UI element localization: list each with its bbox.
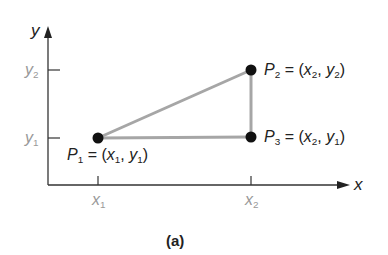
point-p3 <box>246 132 257 143</box>
x1-tick-label: x1 <box>92 192 106 210</box>
p2-label: P2 = (x2, y2) <box>264 62 345 80</box>
point-p1 <box>93 133 104 144</box>
p1-label: P1 = (x1, y1) <box>67 147 148 165</box>
y2-tick-label: y2 <box>25 62 39 80</box>
figure-caption: (a) <box>166 232 184 249</box>
y-axis-arrow-icon <box>44 26 52 38</box>
y-axis-label: y <box>31 22 40 39</box>
x-axis-label: x <box>354 176 363 193</box>
segment-p1-p2 <box>98 70 251 138</box>
y1-tick-label: y1 <box>25 130 39 148</box>
point-p2 <box>246 65 257 76</box>
x-axis-arrow-icon <box>337 181 350 189</box>
segment-p1-p3 <box>98 137 251 138</box>
p3-label: P3 = (x2, y1) <box>264 129 345 147</box>
x2-tick-label: x2 <box>245 192 259 210</box>
